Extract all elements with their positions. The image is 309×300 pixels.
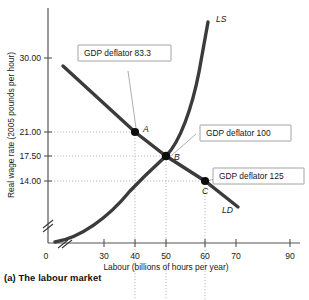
callout-gdp-deflator-100-label: GDP deflator 100 <box>206 128 271 138</box>
curve-label-ls: LS <box>216 14 227 24</box>
data-point-b[interactable] <box>162 152 171 161</box>
xtick-label-90: 90 <box>285 251 295 261</box>
xtick-label-40: 40 <box>130 251 140 261</box>
callout-gdp-deflator-833-label: GDP deflator 83.3 <box>84 48 151 58</box>
callout-gdp-deflator-125-label: GDP deflator 125 <box>219 171 284 181</box>
labour-market-figure: 30.00 21.00 17.50 14.00 0 30 40 50 60 70… <box>0 0 309 300</box>
ytick-label-14: 14.00 <box>19 176 41 186</box>
chart-svg: 30.00 21.00 17.50 14.00 0 30 40 50 60 70… <box>0 0 309 300</box>
callout-gdp-deflator-100[interactable]: GDP deflator 100 <box>200 125 291 141</box>
callout-gdp-deflator-125[interactable]: GDP deflator 125 <box>213 168 304 184</box>
point-label-a: A <box>142 124 149 134</box>
y-tick-labels: 30.00 21.00 17.50 14.00 <box>19 53 41 186</box>
ytick-label-21: 21.00 <box>19 127 41 137</box>
figure-caption: (a) The labour market <box>4 272 101 283</box>
x-axis-title: Labour (billions of hours per year) <box>103 262 228 272</box>
ytick-label-1750: 17.50 <box>19 151 41 161</box>
xtick-label-70: 70 <box>231 251 241 261</box>
xtick-label-60: 60 <box>200 251 210 261</box>
x-tick-labels: 0 30 40 50 60 70 90 <box>44 251 295 261</box>
point-label-b: B <box>174 152 180 162</box>
y-axis-title: Real wage rate (2005 pounds per hour) <box>6 52 16 198</box>
xtick-label-0: 0 <box>44 251 49 261</box>
leader-line-a <box>128 71 136 128</box>
callout-gdp-deflator-833[interactable]: GDP deflator 83.3 <box>78 45 171 61</box>
xtick-label-50: 50 <box>161 251 171 261</box>
point-label-c: C <box>202 186 209 196</box>
xtick-label-30: 30 <box>99 251 109 261</box>
curve-label-ld: LD <box>222 205 233 215</box>
data-point-c[interactable] <box>201 177 209 185</box>
data-point-a[interactable] <box>131 128 139 136</box>
ytick-label-30: 30.00 <box>19 53 41 63</box>
